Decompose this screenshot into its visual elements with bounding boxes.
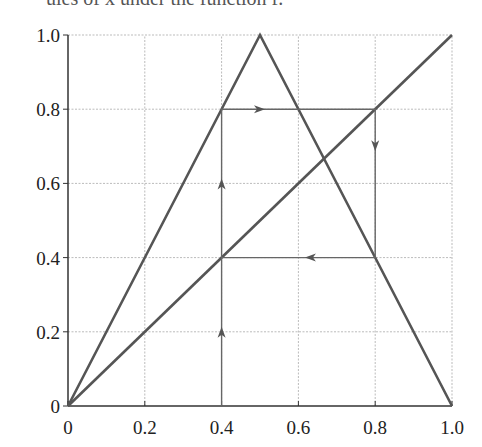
identity-line: [68, 35, 452, 406]
y-tick-label: 0: [51, 396, 61, 417]
x-tick-label: 0.6: [287, 417, 311, 438]
x-tick-label: 0.2: [133, 417, 157, 438]
x-tick-label: 0: [63, 417, 73, 438]
x-tick-label: 0.4: [210, 417, 234, 438]
cobweb-chart: 00.20.40.60.81.000.20.40.60.81.0: [0, 0, 482, 447]
y-tick-label: 0.2: [36, 322, 60, 343]
y-tick-label: 1.0: [36, 25, 60, 46]
y-tick-label: 0.4: [36, 248, 60, 269]
y-tick-label: 0.8: [36, 99, 60, 120]
y-tick-label: 0.6: [36, 173, 60, 194]
x-tick-label: 1.0: [440, 417, 464, 438]
x-tick-label: 0.8: [363, 417, 387, 438]
